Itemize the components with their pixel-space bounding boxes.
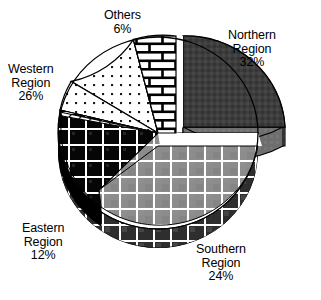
- eastern-label-line2: Region: [22, 236, 64, 250]
- northern-label-line1: Northern: [228, 29, 276, 43]
- slice-label-eastern-region: Eastern Region 12%: [22, 222, 64, 263]
- eastern-label-line1: Eastern: [22, 222, 64, 236]
- northern-label-percent: 32%: [228, 56, 276, 70]
- explode-gap-horizontal: [158, 133, 262, 146]
- slice-label-southern-region: Southern Region 24%: [196, 243, 246, 284]
- northern-label-line2: Region: [228, 43, 276, 57]
- slice-label-northern-region: Northern Region 32%: [228, 29, 276, 70]
- western-label-line1: Western: [8, 63, 54, 77]
- others-label-line1: Others: [104, 9, 141, 23]
- slice-label-western-region: Western Region 26%: [8, 63, 54, 104]
- southern-label-line2: Region: [196, 257, 246, 271]
- slice-label-others: Others 6%: [104, 9, 141, 36]
- pie-chart: Northern Region 32% Others 6% Western Re…: [0, 0, 321, 300]
- southern-label-line1: Southern: [196, 243, 246, 257]
- western-label-percent: 26%: [8, 90, 54, 104]
- others-label-percent: 6%: [104, 23, 141, 37]
- western-label-line2: Region: [8, 77, 54, 91]
- eastern-label-percent: 12%: [22, 249, 64, 263]
- southern-label-percent: 24%: [196, 270, 246, 284]
